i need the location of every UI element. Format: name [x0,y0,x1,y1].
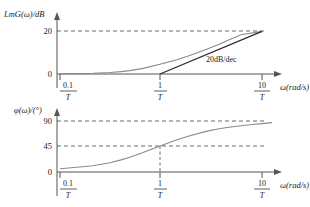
magnitude-exact-curve [60,31,262,73]
magnitude-x-ticks [60,74,262,80]
svg-text:T: T [158,93,163,102]
svg-text:1: 1 [158,179,162,188]
magnitude-y-axis [54,12,60,88]
phase-y-tick-90: 90 [44,116,53,126]
phase-y-tick-0: 0 [48,167,52,177]
magnitude-x-tick-10-over-T: 10 T [254,81,270,102]
svg-text:0.1: 0.1 [63,179,73,188]
phase-x-tick-0.1-over-T: 0.1 T [60,179,77,200]
magnitude-plot: LmG(ω)/dB 20 0 20dB/dec [3,9,309,102]
magnitude-asymptote-line [160,31,262,74]
magnitude-x-tick-0.1-over-T: 0.1 T [60,81,77,102]
magnitude-y-tick-0: 0 [48,69,52,79]
phase-x-ticks [60,172,262,178]
magnitude-x-tick-1-over-T: 1 T [154,81,167,102]
svg-text:T: T [260,191,265,200]
phase-plot: φ(ω)/(°) 90 45 0 [14,105,309,200]
svg-text:T: T [260,93,265,102]
svg-text:T: T [66,93,71,102]
phase-x-tick-1-over-T: 1 T [154,179,167,200]
svg-text:0.1: 0.1 [63,81,73,90]
magnitude-y-tick-20: 20 [44,26,53,36]
magnitude-x-axis-label: ω(rad/s) [280,82,309,92]
phase-y-axis-label: φ(ω)/(°) [14,105,42,115]
magnitude-x-axis [57,71,282,77]
phase-y-tick-45: 45 [44,141,53,151]
magnitude-slope-annotation: 20dB/dec [206,55,237,64]
phase-x-tick-10-over-T: 10 T [254,179,270,200]
svg-text:10: 10 [258,179,266,188]
phase-x-axis-label: ω(rad/s) [280,180,309,190]
magnitude-y-axis-label: LmG(ω)/dB [3,9,44,19]
svg-text:T: T [158,191,163,200]
bode-plot-figure: LmG(ω)/dB 20 0 20dB/dec [0,0,310,207]
phase-x-axis [57,169,282,175]
svg-text:1: 1 [158,81,162,90]
svg-text:T: T [66,191,71,200]
svg-text:10: 10 [258,81,266,90]
